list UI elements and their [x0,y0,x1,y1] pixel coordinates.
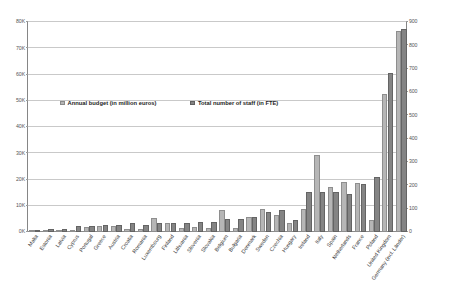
grouped-bar-chart: 0K10K20K30K40K50K60K70K80K 0100200300400… [0,0,449,303]
bar-annual-budget [260,209,265,232]
bar-group [286,22,300,232]
bar-group [299,22,313,232]
bar-total-staff [198,222,203,232]
category-axis-labels: MaltaEstoniaLatviaCyprusPortugalGreeceAu… [27,234,407,303]
legend-item-annual-budget: Annual budget (in million euros) [60,100,156,106]
bar-annual-budget [287,223,292,232]
bar-total-staff [103,225,108,232]
bar-annual-budget [233,228,238,232]
bar-total-staff [184,223,189,232]
legend-label-annual-budget: Annual budget (in million euros) [68,100,157,106]
bar-annual-budget [219,210,224,232]
bar-annual-budget [70,230,75,232]
bar-group [381,22,395,232]
bar-group [204,22,218,232]
bar-total-staff [347,194,352,232]
chart-legend: Annual budget (in million euros) Total n… [60,100,278,106]
bar-total-staff [266,212,271,232]
category-label: Greece [93,234,107,251]
plot-area: 0K10K20K30K40K50K60K70K80K 0100200300400… [27,22,407,232]
staff-swatch-icon [190,101,195,106]
bar-total-staff [225,219,230,232]
bar-annual-budget [382,94,387,232]
bar-group [245,22,259,232]
bar-group [177,22,191,232]
bar-group [218,22,232,232]
bar-group [164,22,178,232]
bar-annual-budget [355,183,360,232]
bar-total-staff [35,230,40,232]
bar-annual-budget [328,187,333,232]
bar-group [354,22,368,232]
bar-total-staff [361,184,366,232]
bar-total-staff [143,225,148,232]
bar-group [367,22,381,232]
bar-annual-budget [97,226,102,232]
bars-layer [28,22,406,232]
bar-annual-budget [369,220,374,232]
bar-group [394,22,408,232]
bar-total-staff [48,229,53,232]
bar-group [327,22,341,232]
bar-annual-budget [151,218,156,232]
bar-group [96,22,110,232]
bar-annual-budget [396,31,401,232]
bar-annual-budget [165,223,170,232]
bar-total-staff [171,223,176,232]
bar-annual-budget [111,226,116,232]
bar-total-staff [333,192,338,232]
bar-annual-budget [246,217,251,232]
bar-annual-budget [192,227,197,233]
bar-total-staff [62,229,67,232]
bar-total-staff [89,226,94,232]
budget-swatch-icon [60,101,65,106]
category-label: Portugal [78,234,94,253]
bar-total-staff [76,226,81,232]
bar-group [28,22,42,232]
legend-item-total-staff: Total number of staff (in FTE) [190,100,278,106]
bar-total-staff [116,225,121,232]
bar-annual-budget [206,228,211,232]
bar-total-staff [401,29,406,232]
bar-total-staff [306,192,311,232]
bar-total-staff [320,192,325,232]
bar-group [232,22,246,232]
bar-group [313,22,327,232]
bar-group [259,22,273,232]
bar-group [137,22,151,232]
bar-total-staff [238,219,243,232]
bar-group [109,22,123,232]
bar-total-staff [157,223,162,232]
category-label: Estonia [39,234,54,252]
bar-group [123,22,137,232]
bar-annual-budget [138,229,143,232]
category-label: Italy [315,234,325,245]
bar-group [150,22,164,232]
category-label: Austria [107,234,121,251]
bar-annual-budget [29,230,34,232]
bar-total-staff [388,73,393,232]
bar-total-staff [211,222,216,232]
bar-annual-budget [56,230,61,232]
category-label: Ireland [298,234,312,250]
bar-group [42,22,56,232]
category-label: Slovakia [200,234,216,253]
bar-group [272,22,286,232]
bar-group [191,22,205,232]
legend-label-total-staff: Total number of staff (in FTE) [198,100,278,106]
bar-total-staff [279,210,284,232]
bar-annual-budget [84,227,89,233]
bar-annual-budget [179,228,184,232]
bar-total-staff [374,177,379,232]
bar-group [82,22,96,232]
bar-group [340,22,354,232]
bar-annual-budget [301,209,306,232]
bar-total-staff [293,220,298,232]
bar-group [69,22,83,232]
bar-group [55,22,69,232]
bar-total-staff [252,217,257,232]
category-label: Spain [326,234,338,248]
category-label: France [352,234,366,251]
bar-annual-budget [274,215,279,232]
bar-annual-budget [314,155,319,232]
